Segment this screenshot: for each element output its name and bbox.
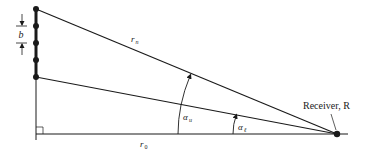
spacing-dimension: b [16, 14, 27, 55]
svg-text:ℓ: ℓ [244, 127, 247, 133]
svg-text:α: α [183, 112, 188, 122]
receiver-label: Receiver, R [303, 100, 350, 130]
array-element [33, 23, 39, 29]
array-element [33, 57, 39, 63]
receiver-leader-line [331, 114, 336, 130]
source-array [33, 6, 39, 80]
array-geometry-diagram: b r n r 0 α u α ℓ Receiver, R [0, 0, 365, 158]
svg-text:n: n [136, 39, 139, 45]
svg-text:u: u [189, 117, 192, 123]
svg-text:r: r [140, 139, 144, 149]
rn-label: r n [131, 34, 139, 45]
right-angle-mark [36, 127, 43, 134]
angle-alpha-l: α ℓ [233, 116, 247, 134]
array-element [33, 40, 39, 46]
svg-text:r: r [131, 34, 135, 44]
svg-text:α: α [238, 122, 243, 132]
svg-text:0: 0 [145, 144, 148, 150]
spacing-label: b [19, 29, 24, 40]
receiver-point [334, 131, 340, 137]
r0-label: r 0 [140, 139, 148, 150]
svg-text:Receiver, R: Receiver, R [303, 100, 350, 111]
baseline-r0 [36, 127, 348, 134]
